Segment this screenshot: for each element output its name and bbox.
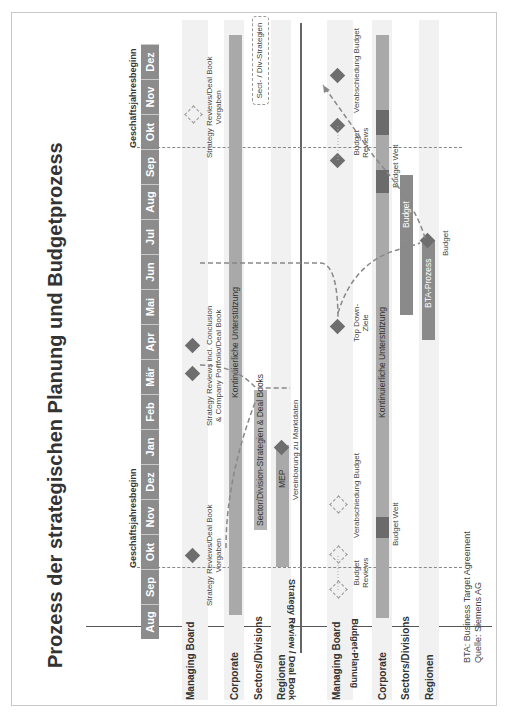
process-slide: Prozess der strategischen Planung und Bu… [0,0,507,718]
footnotes: BTA: Business Target Agreement Quelle: S… [462,531,484,663]
flow-connectors [0,0,507,718]
